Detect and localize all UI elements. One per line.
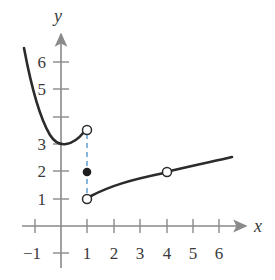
axes bbox=[22, 34, 246, 268]
x-tick-label: 6 bbox=[215, 244, 224, 263]
open-point-marker bbox=[83, 195, 92, 204]
x-tick-label: −1 bbox=[23, 244, 41, 263]
x-tick-label: 4 bbox=[163, 244, 172, 263]
right-branch-curve bbox=[91, 157, 232, 196]
y-axis-label: y bbox=[52, 6, 62, 26]
x-tick-label: 2 bbox=[110, 244, 119, 263]
open-point-marker bbox=[83, 126, 92, 135]
open-point-marker bbox=[163, 168, 172, 177]
y-tick-label: 6 bbox=[38, 53, 47, 72]
x-tick-label: 3 bbox=[136, 244, 145, 263]
y-tick-labels: 6 5 3 2 1 bbox=[38, 53, 47, 209]
x-tick-label: 5 bbox=[189, 244, 198, 263]
y-tick-label: 1 bbox=[38, 190, 47, 209]
filled-point-marker bbox=[83, 168, 92, 177]
y-tick-label: 2 bbox=[38, 162, 47, 181]
function-graph: −1 1 2 3 4 5 6 6 5 3 2 1 y x bbox=[0, 0, 275, 280]
y-tick-label: 5 bbox=[38, 80, 47, 99]
x-tick-label: 1 bbox=[83, 244, 92, 263]
x-axis-label: x bbox=[253, 216, 262, 236]
y-tick-label: 3 bbox=[38, 135, 47, 154]
